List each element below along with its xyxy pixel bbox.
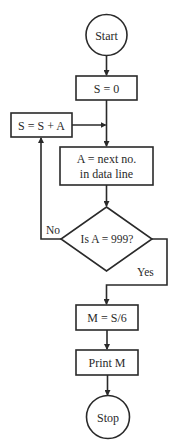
yes-label: Yes	[137, 266, 154, 278]
print-label: Print M	[88, 356, 125, 370]
accumulate-label: S = S + A	[18, 119, 65, 133]
stop-label: Stop	[97, 411, 119, 425]
flowchart: Start S = 0 S = S + A A = next no. in da…	[0, 0, 174, 443]
decision-label: Is A = 999?	[81, 233, 134, 245]
mean-label: M = S/6	[87, 311, 126, 325]
init-label: S = 0	[94, 82, 119, 96]
start-label: Start	[95, 29, 118, 43]
read-label-line1: A = next no.	[77, 152, 136, 166]
no-label: No	[46, 224, 60, 236]
read-label-line2: in data line	[80, 167, 133, 181]
